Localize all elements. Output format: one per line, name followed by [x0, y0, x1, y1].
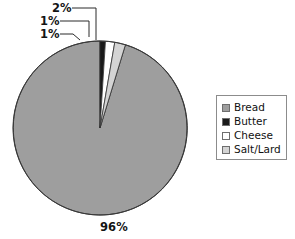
legend-item-bread[interactable]: Bread: [222, 101, 282, 114]
legend-label-salt-lard: Salt/Lard: [234, 144, 281, 155]
legend-swatch-cheese: [222, 132, 230, 140]
legend-label-bread: Bread: [234, 102, 265, 113]
legend-item-cheese[interactable]: Cheese: [222, 129, 282, 142]
legend-swatch-butter: [222, 118, 230, 126]
chart-legend: Bread Butter Cheese Salt/Lard: [216, 95, 287, 160]
legend-label-cheese: Cheese: [234, 130, 273, 141]
legend-swatch-bread: [222, 104, 230, 112]
leader-line-salt-lard: [72, 8, 96, 40]
callout-label-salt-lard: 2%: [52, 3, 72, 15]
leader-line-butter: [60, 34, 80, 40]
pie-chart-figure: 2% 1% 1% 96% Bread Butter Cheese Salt/La…: [0, 0, 295, 239]
legend-item-salt-lard[interactable]: Salt/Lard: [222, 143, 282, 156]
pie-slices: [13, 41, 187, 215]
legend-swatch-salt-lard: [222, 146, 230, 154]
legend-item-butter[interactable]: Butter: [222, 115, 282, 128]
legend-label-butter: Butter: [234, 116, 267, 127]
callout-label-butter: 1%: [40, 29, 60, 41]
leader-line-cheese: [60, 21, 89, 37]
callout-label-bread: 96%: [100, 222, 128, 234]
callout-label-cheese: 1%: [40, 16, 60, 28]
